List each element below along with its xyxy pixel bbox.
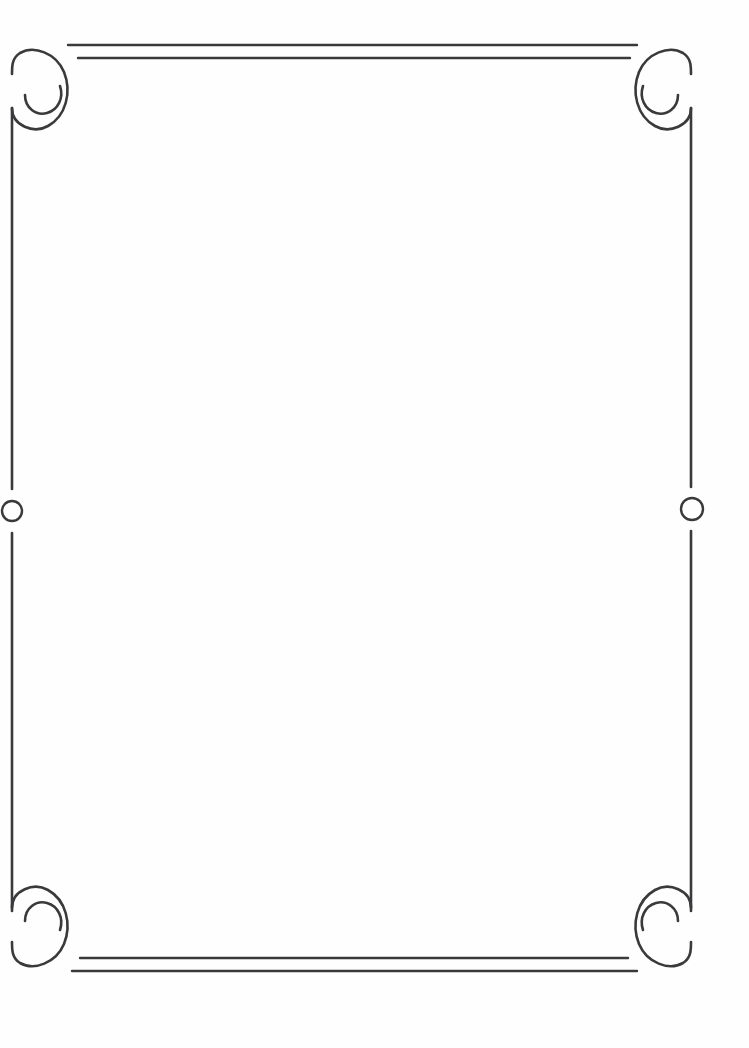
page-background [0,0,749,1048]
decorative-frame-canvas [0,0,749,1048]
